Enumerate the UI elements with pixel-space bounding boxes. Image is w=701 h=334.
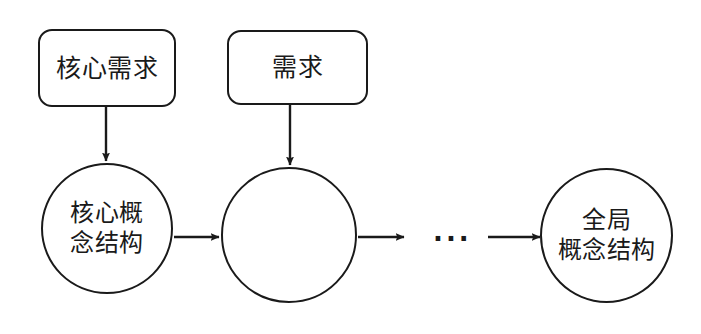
node-global-concept-structure-label: 全局 概念结构 [558,206,656,266]
node-core-concept-structure[interactable]: 核心概 念结构 [41,163,173,294]
node-core-concept-structure-label: 核心概 念结构 [70,199,144,259]
node-global-concept-structure[interactable]: 全局 概念结构 [540,168,673,303]
concept-structure-flowchart: 核心需求 需求 核心概 念结构 全局 概念结构 ··· [0,0,701,334]
node-intermediate-concept-structure[interactable] [221,167,357,303]
node-requirement-label: 需求 [272,52,323,83]
ellipsis-continuation-marker: ··· [433,226,472,252]
node-requirement[interactable]: 需求 [227,30,368,105]
node-core-requirement-label: 核心需求 [56,53,158,84]
node-core-requirement[interactable]: 核心需求 [38,29,176,107]
